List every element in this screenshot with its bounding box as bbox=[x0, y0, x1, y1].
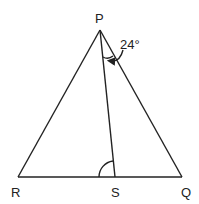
angle-arc-S bbox=[99, 161, 113, 177]
vertex-label-S: S bbox=[111, 185, 120, 200]
vertex-label-P: P bbox=[95, 11, 104, 26]
angle-arc-P bbox=[103, 56, 113, 58]
angle-label-P: 24° bbox=[120, 37, 140, 52]
vertex-label-R: R bbox=[11, 185, 20, 200]
vertex-label-Q: Q bbox=[181, 185, 191, 200]
segment-PR bbox=[18, 30, 100, 177]
triangle-diagram: P R S Q 24° bbox=[0, 0, 199, 204]
